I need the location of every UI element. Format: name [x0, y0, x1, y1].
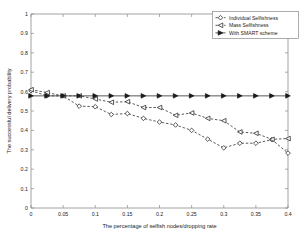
x-axis-label: The percentage of selfish nodes/dropping…	[102, 223, 216, 229]
legend: Individual SelfishnessMass SelfishnessWi…	[213, 12, 299, 39]
y-axis-label: The successful delivery probability	[6, 68, 12, 153]
data-marker	[109, 94, 114, 99]
data-marker	[221, 94, 226, 99]
legend-label-2: With SMART scheme	[229, 30, 278, 36]
data-marker	[141, 94, 146, 99]
y-tick-label: 0.1	[21, 186, 28, 192]
data-marker	[109, 100, 114, 105]
y-tick-label: 0.2	[21, 166, 28, 172]
data-marker	[205, 94, 210, 99]
y-tick-label: 0.7	[21, 69, 28, 75]
x-axis-ticks: 00.050.10.150.20.250.30.350.4	[30, 14, 292, 217]
axes	[31, 14, 288, 208]
data-marker	[157, 94, 162, 99]
data-marker	[254, 94, 259, 99]
y-tick-label: 0.3	[21, 147, 28, 153]
y-tick-label: 0.5	[21, 108, 28, 114]
data-marker	[157, 120, 162, 125]
data-marker	[270, 94, 275, 99]
legend-label-1: Mass Selfishness	[229, 22, 269, 28]
data-marker	[238, 94, 243, 99]
y-tick-label: 0.6	[21, 89, 28, 95]
data-marker	[254, 141, 259, 146]
data-marker	[125, 111, 130, 116]
x-tick-label: 0.4	[284, 211, 291, 217]
data-marker	[109, 112, 114, 117]
chart-canvas: 00.050.10.150.20.250.30.350.4 00.10.20.3…	[0, 0, 305, 243]
x-tick-label: 0.3	[220, 211, 227, 217]
legend-label-0: Individual Selfishness	[229, 15, 278, 21]
data-marker	[173, 94, 178, 99]
data-marker	[221, 146, 226, 151]
data-marker	[77, 104, 82, 109]
data-marker	[189, 94, 194, 99]
data-marker	[157, 105, 162, 110]
data-marker	[221, 118, 226, 123]
data-marker	[93, 104, 98, 109]
data-marker	[173, 123, 178, 128]
x-tick-label: 0.1	[92, 211, 99, 217]
x-tick-label: 0.35	[251, 211, 261, 217]
axis-frame	[31, 14, 288, 208]
x-tick-label: 0	[30, 211, 33, 217]
x-tick-label: 0.2	[156, 211, 163, 217]
data-marker	[141, 105, 146, 110]
data-marker	[238, 141, 243, 146]
data-marker	[125, 99, 130, 104]
x-tick-label: 0.15	[122, 211, 132, 217]
data-marker	[189, 111, 194, 116]
y-tick-label: 0.8	[21, 50, 28, 56]
figure-container: 00.050.10.150.20.250.30.350.4 00.10.20.3…	[0, 0, 305, 243]
data-marker	[205, 116, 210, 121]
data-marker	[254, 131, 259, 136]
series-0	[29, 88, 291, 155]
data-marker	[125, 94, 130, 99]
data-marker	[205, 137, 210, 142]
data-marker	[173, 113, 178, 118]
y-tick-label: 0.4	[21, 127, 28, 133]
data-series-group	[29, 87, 291, 155]
x-tick-label: 0.25	[187, 211, 197, 217]
data-marker	[189, 128, 194, 133]
data-marker	[141, 116, 146, 121]
y-tick-label: 0.9	[21, 30, 28, 36]
series-2	[29, 94, 291, 99]
y-tick-label: 0	[25, 205, 28, 211]
y-axis-ticks: 00.10.20.30.40.50.60.70.80.91	[21, 11, 288, 211]
x-tick-label: 0.05	[58, 211, 68, 217]
y-tick-label: 1	[25, 11, 28, 17]
